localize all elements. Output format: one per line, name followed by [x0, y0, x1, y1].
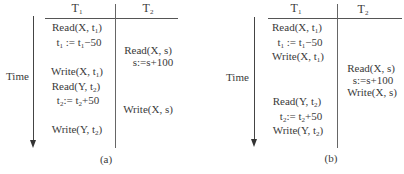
column-divider [337, 4, 338, 148]
column-header-t1: T1 [291, 1, 302, 16]
time-label: Time [6, 70, 29, 82]
column-divider [115, 4, 116, 148]
header-subscript: 2 [150, 8, 154, 16]
t1-op-write-x: Write(X, t1) [272, 50, 324, 66]
t1-op-write-y: Write(Y, t2) [52, 123, 103, 139]
time-arrow-icon [30, 140, 36, 148]
t1-op-read-x: Read(X, t1) [272, 21, 322, 37]
t1-op-compute-t1: t1 := t1−50 [56, 36, 101, 52]
time-arrow-shaft [33, 16, 34, 142]
t1-op-read-x: Read(X, t1) [52, 21, 102, 37]
time-arrow-icon [251, 139, 257, 147]
header-subscript: 1 [79, 8, 83, 16]
t2-op-compute-s: s:=s+100 [133, 56, 174, 68]
t2-op-compute-s: s:=s+100 [353, 74, 394, 86]
caption-b: (b) [325, 152, 338, 164]
t1-op-compute-t2: t2:= t2+50 [57, 94, 99, 110]
t2-op-write-x: Write(X, s) [347, 86, 397, 98]
column-header-t1: T1 [72, 1, 83, 16]
t2-op-write-x: Write(X, s) [123, 103, 173, 115]
t2-op-read-x: Read(X, s) [124, 44, 172, 56]
t1-op-read-y: Read(Y, t2) [273, 95, 322, 111]
header-divider [268, 18, 402, 19]
header-subscript: 1 [298, 8, 302, 16]
t1-op-write-x: Write(X, t1) [51, 65, 103, 81]
column-header-t2: T2 [358, 2, 369, 17]
column-header-t2: T2 [143, 1, 154, 16]
caption-a: (a) [100, 153, 112, 165]
t2-op-read-x: Read(X, s) [347, 62, 395, 74]
time-label: Time [226, 71, 249, 83]
header-divider [45, 18, 178, 19]
time-arrow-shaft [254, 17, 255, 141]
t1-op-write-y: Write(Y, t2) [273, 124, 324, 140]
header-subscript: 2 [365, 9, 369, 17]
